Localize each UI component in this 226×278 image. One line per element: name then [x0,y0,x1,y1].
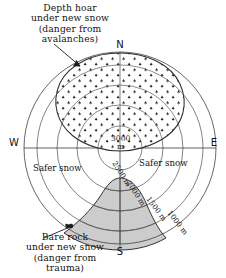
compass-label-west: W [7,137,21,148]
depth-hoar-caption: Depth hoar under new snow (danger from a… [14,3,126,45]
compass-label-south: S [113,246,127,257]
elev-label-3000-unit: m [117,142,124,151]
compass-label-east: E [207,137,221,148]
safer-snow-label-west: Safer snow [33,163,82,173]
snow-aspect-diagram: 3000 m 2500 m 2000 m 1500 m 1000 m Depth… [0,0,226,278]
bare-rock-caption: Bare rock under new snow (danger from tr… [6,232,124,274]
safer-snow-label-east: Safer snow [139,158,188,168]
compass-label-north: N [113,39,127,50]
